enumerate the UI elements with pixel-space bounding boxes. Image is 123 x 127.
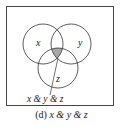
label-z: z: [55, 73, 60, 84]
diagram-frame: [7, 7, 114, 106]
label-y: y: [77, 37, 83, 48]
caption-expression: x & y & z: [49, 109, 87, 120]
venn-diagram: x y z x & y & z: [0, 0, 123, 127]
label-x: x: [35, 37, 41, 48]
pointer-label: x & y & z: [26, 94, 64, 104]
figure-caption: (d) x & y & z: [0, 109, 123, 120]
caption-prefix: (d): [35, 109, 47, 120]
